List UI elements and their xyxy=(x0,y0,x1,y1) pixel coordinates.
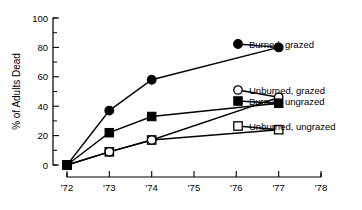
legend-marker-burned-grazed xyxy=(234,40,243,49)
marker-burned-ungrazed-74 xyxy=(148,112,156,120)
marker-burned-grazed-73 xyxy=(105,106,114,115)
legend-marker-unburned-ungrazed xyxy=(234,122,242,130)
x-tick-label-72: '72 xyxy=(61,182,73,193)
x-tick-label-76: '76 xyxy=(230,182,242,193)
y-tick-label-20: 20 xyxy=(37,130,48,141)
y-tick-label-80: 80 xyxy=(37,42,48,53)
marker-burned-ungrazed-73 xyxy=(105,129,113,137)
chart-figure: 100 80 60 40 20 0 % of Adults Dead '72 '… xyxy=(0,0,362,210)
marker-burned-grazed-74 xyxy=(147,75,156,84)
x-tick-label-78: '78 xyxy=(315,182,327,193)
x-tick-label-75: '75 xyxy=(188,182,200,193)
legend-marker-unburned-grazed xyxy=(234,86,242,94)
x-tick-label-74: '74 xyxy=(146,182,158,193)
marker-unburned-grazed-74 xyxy=(148,136,156,144)
x-tick-label-77: '77 xyxy=(273,182,285,193)
y-axis-title: % of Adults Dead xyxy=(11,53,22,130)
marker-origin xyxy=(63,161,72,170)
y-tick-label-0: 0 xyxy=(43,160,48,171)
legend-label-burned-ungrazed: Burned, ungrazed xyxy=(249,96,325,107)
x-tick-label-73: '73 xyxy=(103,182,115,193)
legend-label-burned-grazed: Burned, grazed xyxy=(249,39,314,50)
marker-unburned-grazed-73 xyxy=(105,148,113,156)
y-tick-label-40: 40 xyxy=(37,101,48,112)
legend-label-unburned-grazed: Unburned, grazed xyxy=(249,85,325,96)
y-tick-label-100: 100 xyxy=(32,13,48,24)
series-line-unburned-ungrazed xyxy=(67,130,279,165)
y-tick-label-60: 60 xyxy=(37,71,48,82)
legend-marker-burned-ungrazed xyxy=(234,97,242,105)
legend-label-unburned-ungrazed: Unburned, ungrazed xyxy=(249,121,336,132)
line-chart: 100 80 60 40 20 0 % of Adults Dead '72 '… xyxy=(0,0,362,210)
